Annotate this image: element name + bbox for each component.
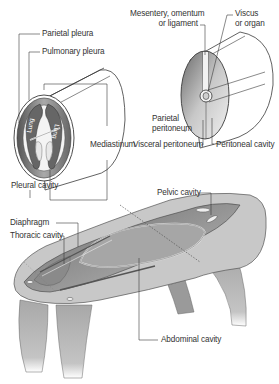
- label-parietal-pleura: Parietal pleura: [42, 30, 93, 38]
- label-visceral-peritoneum: Visceral peritoneum: [133, 141, 203, 149]
- label-parietal-peritoneum-line1: Parietal: [152, 115, 192, 123]
- label-mesentery: Mesentery, omentum or ligament: [130, 10, 198, 28]
- label-pulmonary-pleura: Pulmonary pleura: [42, 48, 105, 56]
- label-mesentery-line1: Mesentery, omentum: [130, 10, 198, 18]
- quadruped-body: [14, 193, 266, 378]
- peritoneal-cylinder: [181, 32, 273, 148]
- label-viscus-line1: Viscus: [235, 10, 265, 18]
- diagram-canvas: Lung Lung: [0, 0, 279, 384]
- label-parietal-peritoneum: Parietal peritoneum: [152, 115, 192, 133]
- label-pelvic-cavity: Pelvic cavity: [157, 189, 201, 197]
- label-viscus: Viscus or organ: [235, 10, 265, 28]
- label-mediastinum: Mediastinum: [90, 141, 135, 149]
- label-abdominal-cavity: Abdominal cavity: [161, 336, 221, 344]
- label-pleural-cavity: Pleural cavity: [11, 182, 58, 190]
- label-peritoneal-cavity: Peritoneal cavity: [216, 141, 274, 149]
- label-parietal-peritoneum-line2: peritoneum: [152, 125, 192, 133]
- label-viscus-line2: or organ: [235, 20, 265, 28]
- anatomy-figure: Lung Lung: [0, 0, 279, 384]
- label-mesentery-line2: or ligament: [130, 20, 198, 28]
- label-diaphragm: Diaphragm: [10, 219, 49, 227]
- label-thoracic-cavity: Thoracic cavity: [10, 232, 63, 240]
